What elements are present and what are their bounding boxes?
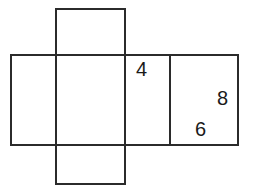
net-panel-top-flap	[56, 9, 125, 55]
dimension-label-depth: 6	[195, 119, 206, 139]
dimension-label-width: 4	[136, 59, 147, 79]
net-panel-bottom-flap	[56, 145, 125, 184]
dimension-label-height: 8	[217, 88, 228, 108]
net-panel-left	[11, 55, 56, 145]
net-panel-fourth	[125, 55, 170, 145]
figure-canvas: 4 8 6	[0, 0, 255, 190]
net-panel-center	[56, 55, 125, 145]
